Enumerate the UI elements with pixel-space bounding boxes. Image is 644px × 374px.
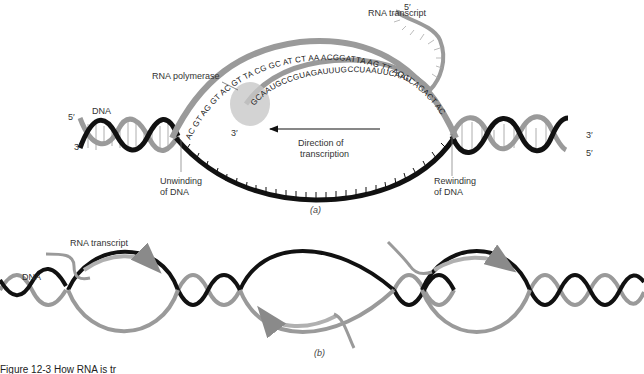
label-unwinding-line2: of DNA bbox=[160, 187, 189, 197]
rna-sequence: GCAAUGCCGUAGAUUUGCCUAAUUCAAU bbox=[249, 65, 413, 107]
panel-b: RNA transcript DNA (b) bbox=[0, 238, 644, 358]
label-rewinding-line2: of DNA bbox=[434, 187, 463, 197]
dna-helix-b bbox=[0, 269, 644, 305]
label-rna-polymerase: RNA polymerase bbox=[152, 71, 220, 81]
label-left-3prime: 3′ bbox=[74, 142, 81, 152]
transcription-figure: AC GT AG GT AC GT TA CG GC AT CT AA ACGG… bbox=[0, 0, 644, 374]
figure-caption: Figure 12-3 How RNA is tr bbox=[0, 364, 117, 374]
label-right-5prime: 5′ bbox=[586, 148, 593, 158]
panel-a: AC GT AG GT AC GT TA CG GC AT CT AA ACGG… bbox=[68, 2, 593, 215]
label-rna-transcript-a: RNA transcript bbox=[368, 8, 427, 18]
label-unwinding-line1: Unwinding bbox=[160, 176, 202, 186]
panel-b-caption: (b) bbox=[314, 348, 325, 358]
panel-a-caption: (a) bbox=[310, 205, 321, 215]
label-left-5prime: 5′ bbox=[68, 112, 75, 122]
dna-helix-left bbox=[80, 118, 178, 150]
label-transcript-5prime: 5′ bbox=[404, 2, 411, 12]
dna-template-sequence: AC GT AG GT AC GT TA CG GC AT CT AA ACGG… bbox=[184, 53, 447, 141]
label-dna-b: DNA bbox=[22, 272, 41, 282]
transcription-bubble-2 bbox=[240, 251, 394, 348]
label-rewinding-line1: Rewinding bbox=[434, 176, 476, 186]
label-dna-a: DNA bbox=[92, 106, 111, 116]
dna-helix-right bbox=[452, 117, 568, 153]
label-right-3prime: 3′ bbox=[586, 130, 593, 140]
label-direction-line2: transcription bbox=[300, 149, 349, 159]
label-rna-3prime: 3′ bbox=[231, 128, 238, 138]
transcription-bubble-3 bbox=[388, 242, 530, 332]
label-rna-transcript-b: RNA transcript bbox=[70, 238, 129, 248]
label-direction-line1: Direction of bbox=[298, 138, 344, 148]
